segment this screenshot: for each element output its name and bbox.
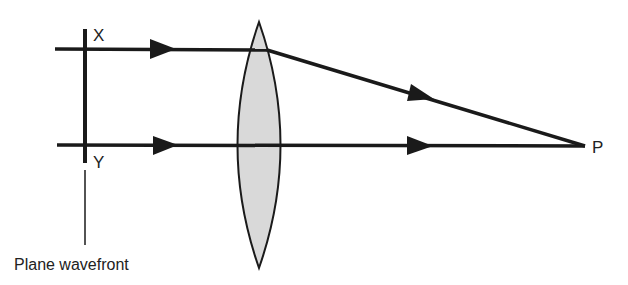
label-plane-wavefront: Plane wavefront — [14, 256, 129, 273]
diagram-canvas: X Y P Plane wavefront — [0, 0, 628, 285]
axial-ray — [57, 145, 585, 146]
arrow-icon-top-incident — [150, 39, 176, 59]
label-y: Y — [93, 153, 104, 172]
label-x: X — [93, 26, 104, 45]
arrow-icon-axial-before-lens — [153, 136, 178, 155]
arrow-icon-top-refracted — [407, 84, 434, 101]
arrow-icon-axial-after-lens — [407, 136, 433, 155]
label-p: P — [592, 138, 603, 157]
